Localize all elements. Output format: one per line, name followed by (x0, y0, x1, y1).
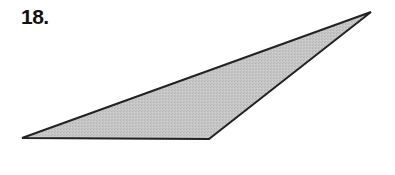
triangle-figure (0, 0, 395, 175)
obtuse-triangle (22, 12, 371, 139)
problem-canvas: 18. (0, 0, 395, 175)
